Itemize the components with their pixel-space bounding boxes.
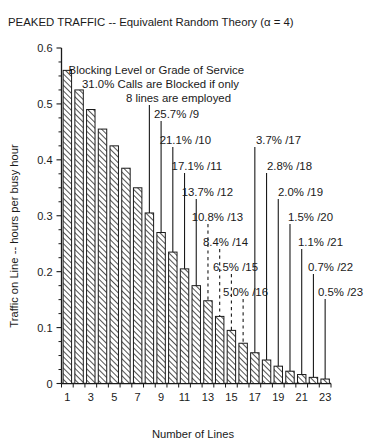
bar xyxy=(239,343,247,383)
annotation-label: 1.1% /21 xyxy=(298,236,343,248)
x-axis-title: Number of Lines xyxy=(152,428,234,440)
x-tick-label: 15 xyxy=(225,391,237,403)
bar xyxy=(215,316,223,383)
bar xyxy=(98,129,106,383)
x-tick-label: 11 xyxy=(179,391,190,403)
annotation-label: 0.5% /23 xyxy=(318,286,363,298)
annotation-caption: 31.0% Calls are Blocked if only xyxy=(82,78,239,90)
bar xyxy=(309,377,317,383)
x-tick-label: 13 xyxy=(202,391,214,403)
annotation-label: 3.7% /17 xyxy=(256,134,301,146)
bar xyxy=(297,375,305,384)
chart-title: PEAKED TRAFFIC -- Equivalent Random Theo… xyxy=(8,16,294,28)
y-tick-label: 0.1 xyxy=(37,322,52,334)
bar xyxy=(133,188,141,384)
annotation-label: 2.0% /19 xyxy=(278,186,323,198)
x-tick-label: 3 xyxy=(88,391,94,403)
x-axis-ticks: 1357911131517192123 xyxy=(62,384,332,403)
y-tick-label: 0.3 xyxy=(37,210,52,222)
annotation-label: 25.7% /9 xyxy=(154,108,199,120)
annotation-label: 1.5% /20 xyxy=(288,211,333,223)
annotation-caption: Blocking Level or Grade of Service xyxy=(69,64,244,76)
annotation-label: 5.0% /16 xyxy=(223,286,268,298)
annotation-label: 2.8% /18 xyxy=(267,160,312,172)
x-tick-label: 23 xyxy=(319,391,331,403)
y-tick-label: 0 xyxy=(46,378,52,390)
bar xyxy=(145,213,153,384)
bar xyxy=(274,366,282,383)
bar xyxy=(321,379,329,383)
bar xyxy=(75,90,83,384)
x-tick-label: 19 xyxy=(272,391,284,403)
x-tick-label: 21 xyxy=(296,391,308,403)
annotation-label: 8 lines are employed xyxy=(126,92,231,104)
x-tick-label: 9 xyxy=(158,391,164,403)
chart-container: PEAKED TRAFFIC -- Equivalent Random Theo… xyxy=(0,0,383,443)
annotation-label: 17.1% /11 xyxy=(172,160,222,172)
y-tick-label: 0.2 xyxy=(37,266,52,278)
x-tick-label: 17 xyxy=(249,391,261,403)
bar xyxy=(87,110,95,384)
bar xyxy=(227,330,235,383)
y-axis-ticks: 00.10.20.30.40.50.6 xyxy=(37,42,61,390)
y-tick-label: 0.4 xyxy=(37,154,52,166)
x-tick-label: 7 xyxy=(135,391,141,403)
bar xyxy=(157,233,165,384)
y-tick-label: 0.6 xyxy=(37,42,52,54)
annotation-label: 0.7% /22 xyxy=(308,261,353,273)
bar xyxy=(192,286,200,384)
annotation-label: 10.8% /13 xyxy=(192,211,243,223)
bar xyxy=(169,252,177,383)
annotation-label: 21.1% /10 xyxy=(160,134,211,146)
bar xyxy=(180,269,188,384)
annotation-label: 6.5% /15 xyxy=(213,261,258,273)
bar xyxy=(204,301,212,384)
bar xyxy=(122,168,130,383)
annotation-label: 8.4% /14 xyxy=(203,236,248,248)
y-axis-title: Traffic on Line -- hours per busy hour xyxy=(8,144,20,328)
x-tick-label: 5 xyxy=(111,391,117,403)
y-tick-label: 0.5 xyxy=(37,98,52,110)
x-tick-label: 1 xyxy=(64,391,70,403)
peaked-traffic-bar-chart: PEAKED TRAFFIC -- Equivalent Random Theo… xyxy=(0,0,383,443)
annotation-label: 13.7% /12 xyxy=(182,186,233,198)
bar xyxy=(262,360,270,383)
bar xyxy=(251,353,259,384)
bar xyxy=(286,371,294,383)
bar xyxy=(63,70,71,383)
bar xyxy=(110,146,118,384)
